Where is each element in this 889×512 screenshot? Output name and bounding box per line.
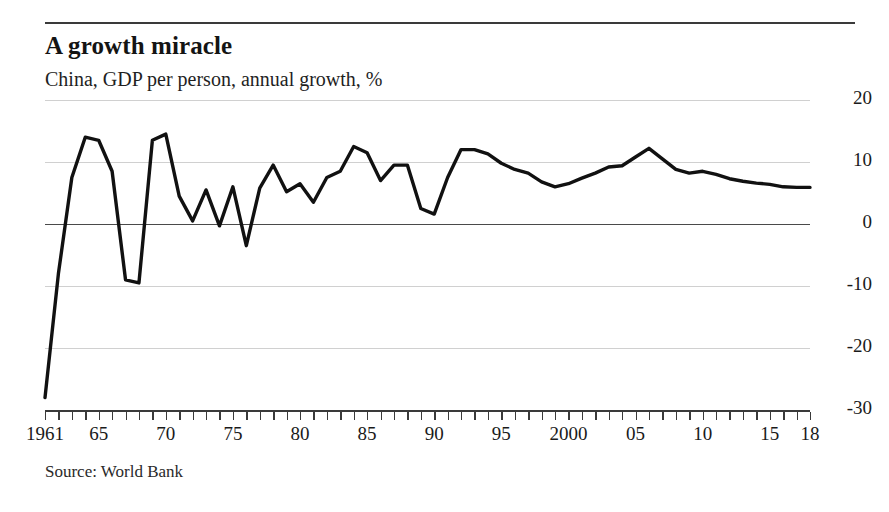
x-tick-2005 xyxy=(636,412,637,420)
x-tick-1974 xyxy=(219,412,220,420)
x-tick-1992 xyxy=(461,412,462,420)
x-axis-label-1995: 95 xyxy=(492,423,511,445)
x-tick-2008 xyxy=(676,412,677,420)
x-tick-1991 xyxy=(448,412,449,420)
x-tick-2004 xyxy=(622,412,623,420)
x-tick-1997 xyxy=(528,412,529,420)
x-tick-1981 xyxy=(313,412,314,420)
top-rule xyxy=(45,22,855,24)
x-tick-2018 xyxy=(810,412,811,420)
x-tick-1984 xyxy=(354,412,355,420)
x-axis-label-1975: 75 xyxy=(223,423,242,445)
y-axis-label--10: -10 xyxy=(812,273,872,295)
x-tick-2015 xyxy=(770,412,771,420)
x-tick-1971 xyxy=(179,412,180,420)
x-tick-2013 xyxy=(743,412,744,420)
x-tick-1998 xyxy=(542,412,543,420)
x-tick-1980 xyxy=(300,412,301,420)
x-tick-1962 xyxy=(58,412,59,420)
chart-subtitle: China, GDP per person, annual growth, % xyxy=(45,68,383,91)
x-tick-2002 xyxy=(595,412,596,420)
x-axis-label-1970: 70 xyxy=(156,423,175,445)
x-tick-1977 xyxy=(260,412,261,420)
x-tick-1964 xyxy=(85,412,86,420)
x-tick-1989 xyxy=(421,412,422,420)
x-tick-1983 xyxy=(340,412,341,420)
x-axis-label-2000: 2000 xyxy=(549,423,587,445)
y-axis-label--20: -20 xyxy=(812,335,872,357)
y-axis-label-20: 20 xyxy=(812,87,872,109)
x-tick-1996 xyxy=(515,412,516,420)
x-tick-1985 xyxy=(367,412,368,420)
x-tick-1968 xyxy=(139,412,140,420)
x-tick-1975 xyxy=(233,412,234,420)
x-tick-1967 xyxy=(126,412,127,420)
x-tick-1972 xyxy=(193,412,194,420)
series-line-china-gdp-growth xyxy=(45,134,810,398)
x-tick-1966 xyxy=(112,412,113,420)
y-axis-label-0: 0 xyxy=(812,211,872,233)
x-tick-2003 xyxy=(609,412,610,420)
x-tick-1979 xyxy=(287,412,288,420)
x-tick-2014 xyxy=(756,412,757,420)
data-line-series xyxy=(45,100,810,410)
x-tick-2016 xyxy=(783,412,784,420)
x-tick-1970 xyxy=(166,412,167,420)
y-axis-label-10: 10 xyxy=(812,149,872,171)
x-tick-2007 xyxy=(662,412,663,420)
x-tick-1973 xyxy=(206,412,207,420)
x-tick-2006 xyxy=(649,412,650,420)
x-axis: 196165707580859095200005101518 xyxy=(45,410,810,470)
x-tick-1982 xyxy=(327,412,328,420)
x-tick-1990 xyxy=(434,412,435,420)
page-title: A growth miracle xyxy=(45,32,232,60)
x-axis-line xyxy=(45,410,810,412)
x-tick-1963 xyxy=(72,412,73,420)
x-tick-2000 xyxy=(568,412,569,420)
y-axis-label--30: -30 xyxy=(812,397,872,419)
x-tick-2001 xyxy=(582,412,583,420)
x-axis-label-2018: 18 xyxy=(801,423,820,445)
x-axis-label-1965: 65 xyxy=(89,423,108,445)
x-axis-label-1961: 1961 xyxy=(26,423,64,445)
x-tick-2009 xyxy=(689,412,690,420)
x-tick-1978 xyxy=(273,412,274,420)
x-tick-2010 xyxy=(703,412,704,420)
x-tick-1993 xyxy=(474,412,475,420)
x-axis-label-2010: 10 xyxy=(693,423,712,445)
x-axis-label-1985: 85 xyxy=(358,423,377,445)
x-tick-1961 xyxy=(45,412,46,420)
source-note: Source: World Bank xyxy=(45,462,183,482)
x-tick-2012 xyxy=(729,412,730,420)
x-axis-label-1990: 90 xyxy=(425,423,444,445)
x-tick-1965 xyxy=(99,412,100,420)
x-axis-label-2015: 15 xyxy=(760,423,779,445)
x-axis-label-2005: 05 xyxy=(626,423,645,445)
chart-plot-area xyxy=(45,100,810,410)
x-tick-1988 xyxy=(407,412,408,420)
x-tick-1994 xyxy=(488,412,489,420)
x-tick-1999 xyxy=(555,412,556,420)
x-tick-1976 xyxy=(246,412,247,420)
x-tick-2011 xyxy=(716,412,717,420)
x-tick-1969 xyxy=(152,412,153,420)
x-tick-1995 xyxy=(501,412,502,420)
x-axis-label-1980: 80 xyxy=(291,423,310,445)
x-tick-1986 xyxy=(381,412,382,420)
x-tick-1987 xyxy=(394,412,395,420)
x-tick-2017 xyxy=(797,412,798,420)
